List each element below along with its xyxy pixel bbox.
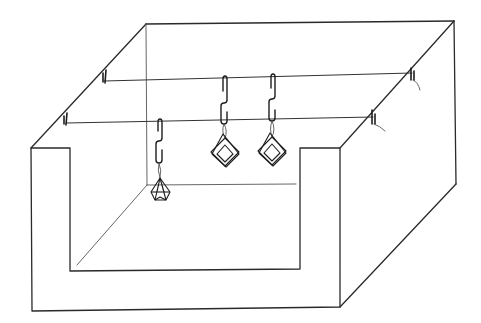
tank bbox=[31, 21, 456, 311]
crystal-pendant-icon bbox=[151, 178, 170, 200]
tank-inner-floor-back bbox=[147, 184, 296, 185]
tank-front-face bbox=[31, 148, 340, 311]
tank-back-top-edge bbox=[146, 21, 454, 24]
clip-upper-right bbox=[411, 68, 420, 90]
wires bbox=[66, 73, 412, 123]
tank-drawing bbox=[0, 0, 481, 323]
clip-lower-left bbox=[64, 113, 67, 125]
clip-lower-right bbox=[372, 110, 385, 131]
upper-wire bbox=[104, 73, 412, 81]
stacked-squares-pendant-icon bbox=[211, 134, 239, 167]
stacked-squares-pendant-icon bbox=[258, 133, 286, 166]
s-hook-icon bbox=[156, 119, 162, 163]
tank-right-vertical-edge bbox=[454, 21, 456, 184]
lower-wire bbox=[66, 117, 373, 123]
s-hook-icon bbox=[269, 74, 275, 121]
tank-inner-back-corner bbox=[146, 24, 147, 185]
hanger-middle bbox=[211, 76, 239, 167]
hanger-right bbox=[258, 74, 286, 166]
tank-right-bottom-edge bbox=[340, 184, 456, 307]
tank-inner-floor-diagonal bbox=[77, 185, 147, 265]
hanger-left bbox=[151, 119, 170, 200]
tank-left-top-edge bbox=[31, 24, 146, 148]
s-hook-icon bbox=[221, 76, 227, 124]
tank-right-top-edge bbox=[340, 21, 454, 148]
clip-upper-left bbox=[103, 70, 106, 83]
tank-illustration bbox=[0, 0, 481, 323]
